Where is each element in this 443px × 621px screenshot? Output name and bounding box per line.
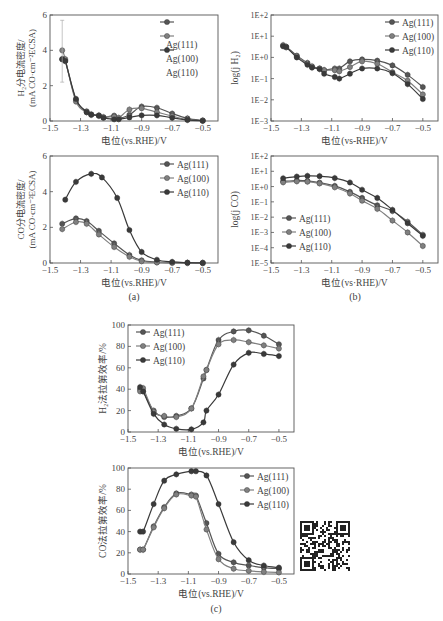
data-point [246, 568, 251, 573]
chart-c-top: −1.5−1.3−1.1−0.9−0.7−0.5020406080100电位(v… [97, 320, 294, 458]
legend-marker-icon [286, 243, 291, 248]
data-point [151, 525, 156, 530]
x-tick-label: −0.7 [241, 576, 258, 586]
y-tick-label: 20 [116, 406, 126, 416]
data-point [139, 259, 144, 264]
data-point [375, 66, 380, 71]
plot-frame [50, 156, 218, 263]
data-point [127, 254, 132, 259]
series-ag111 [60, 56, 206, 124]
data-point [73, 179, 78, 184]
y-axis-label: log(j H₂) [230, 51, 241, 85]
y-tick-label: 1E+1 [251, 167, 268, 176]
x-tick-label: −1.3 [72, 265, 89, 275]
legend-marker-icon [244, 501, 249, 506]
data-point [201, 374, 206, 379]
data-point [216, 557, 221, 562]
data-point [420, 243, 425, 248]
chart-b-bottom: −1.5−1.3−1.1−0.9−0.7−0.51E−51E−41E−31E−2… [230, 152, 438, 289]
data-point [127, 227, 132, 232]
x-tick-label: −0.5 [415, 123, 432, 133]
series-ag110 [60, 56, 206, 125]
data-point [170, 259, 175, 264]
data-point [89, 112, 94, 117]
y-tick-label: 1E+0 [251, 53, 268, 62]
legend-marker-icon [244, 487, 249, 492]
data-point [162, 506, 167, 511]
panel-label-b-text: (b) [349, 291, 361, 303]
y-tick-label: 1E−4 [251, 244, 268, 253]
legend-marker-icon [389, 47, 394, 52]
data-point [151, 411, 156, 416]
series-ag100 [60, 218, 206, 266]
x-tick-label: −0.7 [241, 434, 258, 444]
x-tick-label: −1.1 [324, 123, 340, 133]
chart-a-top: −1.5−1.3−1.1−0.9−0.7−0.50246电位(vs.RHE)/V… [15, 10, 218, 147]
data-point [185, 117, 190, 122]
data-point [405, 82, 410, 87]
data-point [89, 171, 94, 176]
legend-marker-icon [389, 19, 394, 24]
x-tick-label: −0.7 [164, 265, 181, 275]
plot-frame [271, 156, 438, 263]
data-point [347, 64, 352, 69]
y-axis-label: H₂分电流密度/ [15, 39, 26, 97]
data-point [420, 84, 425, 89]
data-point [276, 353, 281, 358]
x-tick-label: −0.9 [133, 123, 150, 133]
x-tick-label: −0.9 [354, 265, 371, 275]
chart-canvas: −1.5−1.3−1.1−0.9−0.7−0.50246电位(vs.RHE)/V… [0, 0, 443, 621]
legend-marker-icon [140, 357, 145, 362]
data-point [261, 569, 266, 574]
data-point [154, 257, 159, 262]
data-point [284, 44, 289, 49]
data-point [216, 392, 221, 397]
legend: Ag(111)Ag(100)Ag(110) [136, 328, 185, 367]
data-point [84, 221, 89, 226]
data-point [140, 547, 145, 552]
data-point [193, 494, 198, 499]
y-tick-label: 1E−3 [251, 117, 268, 126]
data-point [189, 427, 194, 432]
data-point [73, 219, 78, 224]
x-tick-label: −1.1 [180, 434, 196, 444]
data-point [294, 55, 299, 60]
x-tick-label: −0.9 [133, 265, 150, 275]
data-point [60, 221, 65, 226]
data-point [347, 180, 352, 185]
y-tick-label: 1E−1 [251, 198, 268, 207]
legend-label: Ag(110) [257, 500, 289, 511]
data-point [189, 493, 194, 498]
data-point [63, 58, 68, 63]
y-tick-label: 1E−5 [251, 259, 268, 268]
x-tick-label: −0.5 [195, 265, 212, 275]
y-axis-label-units: (mA CO·cm⁻²ECSA) [27, 29, 37, 107]
data-point [231, 560, 236, 565]
legend-label: Ag(111) [153, 328, 184, 339]
data-point [201, 420, 206, 425]
chart-a-bottom: −1.5−1.3−1.1−0.9−0.7−0.50246电位(vs.RHE)/V… [15, 151, 218, 289]
legend-marker-icon [140, 343, 145, 348]
x-tick-label: −1.1 [180, 576, 196, 586]
x-tick-label: −1.1 [103, 123, 119, 133]
data-point [420, 96, 425, 101]
data-point [309, 65, 314, 70]
y-tick-label: 1E−3 [251, 228, 268, 237]
legend-label: Ag(100) [153, 342, 185, 353]
y-tick-label: 20 [116, 548, 126, 558]
data-point [204, 527, 209, 532]
y-tick-label: 6 [43, 10, 48, 20]
y-tick-label: 80 [116, 484, 126, 494]
y-tick-label: 0 [121, 427, 126, 437]
y-axis-label: CO分电流密度/ [15, 179, 26, 240]
data-point [261, 343, 266, 348]
data-point [405, 230, 410, 235]
series-ag110 [137, 468, 281, 571]
legend-label: Ag(100) [257, 486, 289, 497]
legend-label: Ag(110) [153, 356, 185, 367]
y-tick-label: 60 [116, 363, 126, 373]
legend-label: Ag(111) [402, 18, 433, 29]
legend-label: Ag(110) [402, 46, 434, 57]
legend-label: Ag(110) [177, 188, 209, 199]
legend-label: Ag(111) [257, 472, 288, 483]
